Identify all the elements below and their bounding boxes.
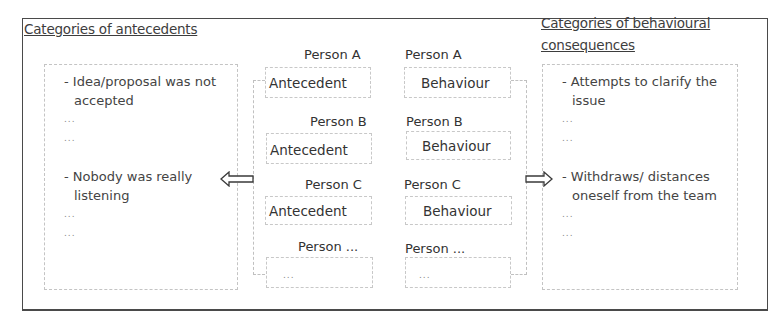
consequence-item-text: - Attempts to clarify the issue xyxy=(562,72,732,110)
ellipsis: ... xyxy=(562,224,732,243)
person-label: Person C xyxy=(404,177,461,192)
ellipsis: ... xyxy=(562,205,732,224)
antecedents-title: Categories of antecedents xyxy=(24,20,197,39)
arrow-left-outline-icon xyxy=(220,171,254,187)
antecedent-bracket xyxy=(253,80,265,275)
consequence-item: - Withdraws/ distances oneself from the … xyxy=(562,167,732,205)
person-label: Person C xyxy=(305,177,362,192)
consequences-title-line2: consequences xyxy=(541,36,635,55)
antecedent-box: ... xyxy=(266,257,373,288)
ellipsis: ... xyxy=(64,205,232,224)
antecedent-box: Antecedent xyxy=(265,67,371,98)
consequences-title-line1: Categories of behavioural xyxy=(541,14,710,33)
consequence-item: - Attempts to clarify the issue xyxy=(562,72,732,110)
ellipsis: ... xyxy=(562,110,732,129)
behaviour-box: Behaviour xyxy=(406,131,511,160)
ellipsis: ... xyxy=(562,129,732,148)
person-label: Person B xyxy=(406,114,463,129)
ellipsis: ... xyxy=(64,110,232,129)
person-label: Person B xyxy=(310,114,367,129)
antecedent-item-text: - Nobody was really listening xyxy=(64,167,232,205)
behaviour-box: ... xyxy=(405,257,511,288)
person-label: Person ... xyxy=(298,239,358,254)
antecedent-item-text: - Idea/proposal was not accepted xyxy=(64,72,232,110)
antecedent-item: - Nobody was really listening xyxy=(64,167,232,205)
behaviour-box: Behaviour xyxy=(404,67,511,98)
spacer xyxy=(562,148,732,167)
ellipsis: ... xyxy=(64,224,232,243)
antecedents-list: - Idea/proposal was not accepted ... ...… xyxy=(64,72,232,243)
consequences-list: - Attempts to clarify the issue ... ... … xyxy=(562,72,732,243)
arrow-right-outline-icon xyxy=(525,171,553,187)
antecedent-box: Antecedent xyxy=(265,196,372,225)
behaviour-box: Behaviour xyxy=(405,196,512,225)
antecedent-item: - Idea/proposal was not accepted xyxy=(64,72,232,110)
person-label: Person A xyxy=(405,47,462,62)
spacer xyxy=(64,148,232,167)
person-label: Person A xyxy=(304,47,361,62)
ellipsis: ... xyxy=(64,129,232,148)
person-label: Person ... xyxy=(405,241,465,256)
antecedent-box: Antecedent xyxy=(266,133,372,164)
consequence-item-text: - Withdraws/ distances oneself from the … xyxy=(562,167,732,205)
